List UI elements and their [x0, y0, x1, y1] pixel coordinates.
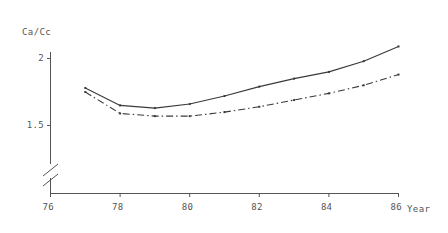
series-line-dash-dot-series	[85, 75, 398, 117]
data-point-marker	[328, 92, 330, 94]
data-point-marker	[328, 71, 330, 73]
data-point-marker	[154, 107, 156, 109]
x-tick-label-82: 82	[251, 203, 262, 212]
data-point-marker	[189, 115, 191, 117]
y-axis-ticks	[47, 59, 51, 126]
data-point-marker	[293, 99, 295, 101]
x-axis-title: Year	[407, 205, 430, 214]
data-point-marker	[154, 115, 156, 117]
data-series-layer	[84, 45, 399, 117]
x-tick-label-76: 76	[43, 203, 54, 212]
data-point-marker	[258, 86, 260, 88]
data-point-marker	[293, 78, 295, 80]
y-axis-title: Ca/Cc	[22, 28, 51, 37]
line-chart	[0, 0, 448, 233]
chart-screenshot: Ca/Cc Year 2 1.5 76 78 80 82 84 86	[0, 0, 448, 233]
data-point-marker	[84, 87, 86, 89]
data-point-marker	[363, 60, 365, 62]
x-tick-label-84: 84	[321, 203, 332, 212]
axis-lines	[50, 52, 399, 194]
x-tick-label-78: 78	[112, 203, 123, 212]
data-point-marker	[224, 111, 226, 113]
data-point-marker	[84, 91, 86, 93]
x-tick-label-86: 86	[391, 203, 402, 212]
data-point-marker	[398, 45, 400, 47]
data-point-marker	[189, 103, 191, 105]
data-point-marker	[119, 112, 121, 114]
x-tick-label-80: 80	[182, 203, 193, 212]
data-point-marker	[363, 84, 365, 86]
data-point-marker	[398, 74, 400, 76]
data-point-marker	[224, 95, 226, 97]
data-point-marker	[119, 104, 121, 106]
series-line-solid-series	[85, 46, 398, 108]
y-tick-label-2: 2	[20, 54, 44, 63]
y-tick-label-1point5: 1.5	[20, 121, 44, 130]
data-point-marker	[258, 106, 260, 108]
